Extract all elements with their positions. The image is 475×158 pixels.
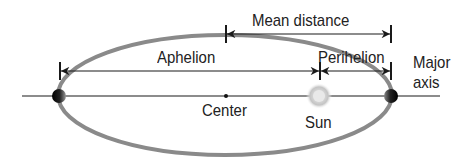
orbit-diagram xyxy=(0,0,475,158)
center-dot xyxy=(224,94,228,98)
mean-distance-label: Mean distance xyxy=(252,12,349,29)
planet-perihelion-icon xyxy=(384,89,398,103)
major-axis-label-line2: axis xyxy=(413,74,440,91)
perihelion-label: Perihelion xyxy=(318,49,385,66)
sun-icon xyxy=(306,83,332,109)
major-axis-label-line1: Major xyxy=(413,54,450,71)
sun-label: Sun xyxy=(305,114,332,131)
center-label: Center xyxy=(202,102,247,119)
aphelion-label: Aphelion xyxy=(157,49,215,66)
planet-aphelion-icon xyxy=(52,89,66,103)
